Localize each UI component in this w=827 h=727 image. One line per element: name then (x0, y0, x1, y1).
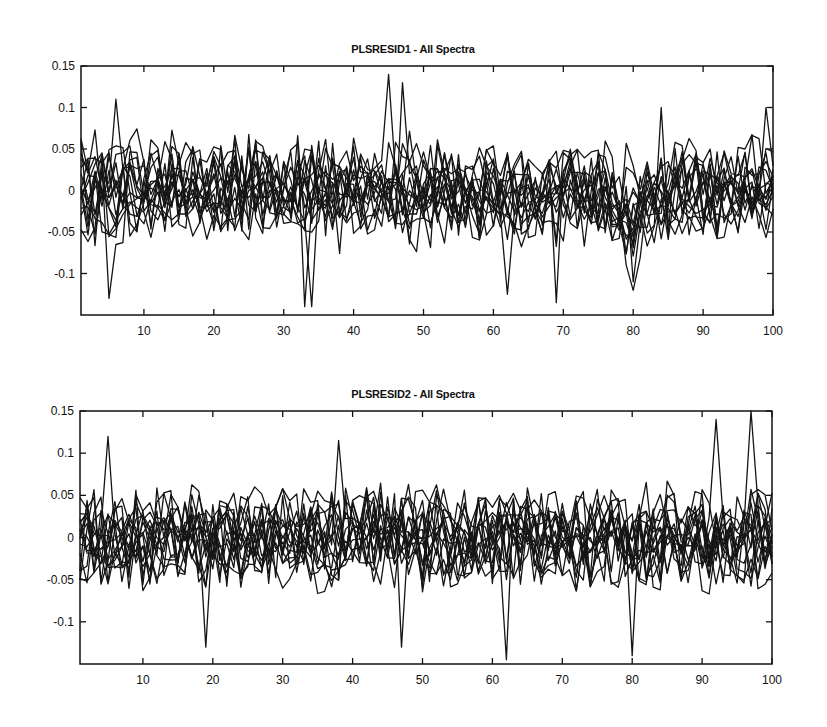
x-tick-label: 90 (695, 673, 709, 687)
y-tick-label: 0.05 (51, 488, 75, 502)
x-tick-label: 100 (762, 673, 782, 687)
x-tick-label: 30 (276, 673, 290, 687)
x-tick-label: 80 (626, 673, 640, 687)
x-tick-label: 70 (556, 673, 570, 687)
x-tick-label: 20 (206, 673, 220, 687)
x-tick-label: 50 (416, 673, 430, 687)
x-tick-label: 60 (486, 673, 500, 687)
y-tick-label: -0.05 (47, 573, 75, 587)
x-tick-label: 40 (346, 673, 360, 687)
chart-plsresid2: PLSRESID2 - All Spectra 1020304050607080… (0, 0, 827, 727)
series-lines (80, 411, 772, 660)
y-tick-label: 0.1 (57, 446, 74, 460)
x-tick-label: 10 (136, 673, 150, 687)
y-tick-label: -0.1 (53, 615, 74, 629)
y-tick-label: 0.15 (51, 404, 75, 418)
y-tick-label: 0 (67, 531, 74, 545)
plot-area: 1020304050607080901000.150.10.050-0.05-0… (0, 0, 827, 727)
